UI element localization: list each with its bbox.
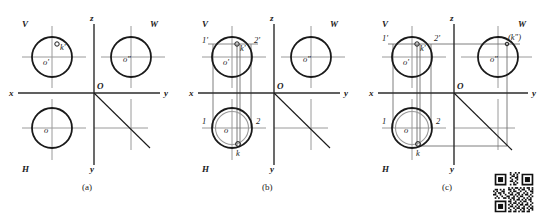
plane-label-h-a: H	[21, 164, 30, 174]
point-label-two-b: 2	[256, 116, 261, 126]
plane-label-h-b: H	[201, 164, 210, 174]
point-label-k-b: k	[236, 148, 240, 158]
point-label-k-prime-c: k'	[420, 43, 426, 53]
point-label-one-prime-b: 1'	[202, 35, 208, 45]
k-prime-marker-a	[55, 42, 59, 46]
axis-label-y-lower-c: y	[449, 164, 455, 174]
axis-label-y-a: y	[163, 88, 169, 98]
axis-label-z-b: z	[269, 13, 274, 23]
point-label-o-prime-b: o'	[223, 57, 229, 67]
axis-label-z-a: z	[89, 13, 94, 23]
point-label-one-prime-c: 1'	[382, 33, 388, 43]
caption-a: (a)	[82, 182, 92, 192]
bisector-line-a	[94, 93, 150, 148]
point-label-k-prime-a: k'	[60, 42, 66, 52]
point-label-o-double-prime-a: o″	[123, 54, 131, 64]
point-label-k-double-prime-c: (k″)	[508, 32, 521, 42]
qr-code[interactable]	[493, 172, 535, 214]
axis-label-x-a: x	[8, 88, 14, 98]
point-label-o-prime-a: o'	[43, 57, 49, 67]
axis-label-y-c: y	[531, 88, 537, 98]
plane-label-v-a: V	[22, 19, 29, 29]
point-label-k-prime-b: k'	[240, 43, 246, 53]
plane-label-v-c: V	[382, 19, 389, 29]
point-label-o-double-prime-c: o″	[490, 54, 498, 64]
bisector-line-c	[454, 93, 512, 150]
plane-label-w-b: W	[330, 19, 339, 29]
axis-label-y-b: y	[343, 88, 349, 98]
point-label-o-c: o	[404, 125, 408, 135]
point-label-o-b: o	[224, 125, 228, 135]
panel-b: V W H x y z y O 1' 2' k' o' o″ 1 2 o k (…	[180, 0, 360, 217]
figure-canvas: V W H x y z y O k' o' o″ o (a)	[0, 0, 554, 217]
plane-label-v-b: V	[202, 19, 209, 29]
axis-label-y-lower-a: y	[89, 164, 95, 174]
plane-label-w-c: W	[518, 19, 527, 29]
point-label-one-c: 1	[382, 116, 386, 126]
point-label-o-a: o	[44, 125, 48, 135]
bisector-line-b	[274, 93, 330, 148]
point-label-two-prime-c: 2'	[434, 33, 440, 43]
caption-c: (c)	[442, 182, 452, 192]
axis-label-x-b: x	[188, 88, 194, 98]
point-label-k-c: k	[416, 148, 420, 158]
point-label-o-double-prime-b: o″	[303, 54, 311, 64]
plane-label-w-a: W	[150, 19, 159, 29]
axis-label-z-c: z	[449, 13, 454, 23]
axis-label-x-c: x	[368, 88, 374, 98]
point-label-one-b: 1	[202, 116, 206, 126]
origin-label-c: O	[457, 81, 464, 91]
point-label-o-prime-c: o'	[403, 57, 409, 67]
panel-b-drawing: V W H x y z y O 1' 2' k' o' o″ 1 2 o k (…	[180, 0, 360, 217]
panel-a: V W H x y z y O k' o' o″ o (a)	[0, 0, 180, 217]
point-label-two-prime-b: 2'	[254, 35, 260, 45]
axis-label-y-lower-b: y	[269, 164, 275, 174]
panel-a-drawing: V W H x y z y O k' o' o″ o (a)	[0, 0, 180, 217]
origin-label-a: O	[97, 81, 104, 91]
origin-label-b: O	[277, 81, 284, 91]
point-label-two-c: 2	[436, 116, 441, 126]
plane-label-h-c: H	[381, 164, 390, 174]
caption-b: (b)	[262, 182, 273, 192]
